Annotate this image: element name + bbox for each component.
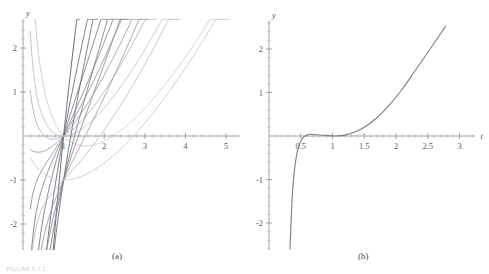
- x-axis-tick-label: 1.5: [359, 141, 370, 151]
- plot-a-svg: 1234521-1-2ty: [0, 0, 245, 250]
- y-axis-tick-label: 1: [13, 87, 17, 97]
- y-axis-tick-label: 2: [13, 43, 17, 53]
- solution-curve: [38, 19, 148, 250]
- y-axis-tick-label: -2: [256, 218, 263, 228]
- x-axis-tick-label: 2: [102, 141, 106, 151]
- x-axis-tick-label: 5: [224, 141, 228, 151]
- x-axis-tick-label: 1: [330, 141, 334, 151]
- chart-panel-b: 0.511.522.5321-1-2ty: [245, 0, 489, 274]
- x-axis-tick-label: 3: [143, 141, 147, 151]
- panel-a-caption: (a): [112, 251, 122, 261]
- y-axis-tick-label: 1: [259, 88, 263, 98]
- plot-b-svg: 0.511.522.5321-1-2ty: [245, 0, 489, 250]
- y-axis-label: y: [25, 8, 30, 18]
- solution-curve: [34, 19, 224, 146]
- solution-curve: [31, 19, 180, 250]
- y-axis-tick-label: -2: [10, 219, 17, 229]
- y-axis-tick-label: -1: [256, 175, 263, 185]
- x-axis-label: t: [480, 131, 483, 141]
- figure-root: 1234521-1-2ty 0.511.522.5321-1-2ty (a) (…: [0, 0, 489, 274]
- x-axis-tick-label: 2: [394, 141, 398, 151]
- x-axis-tick-label: 3: [457, 141, 461, 151]
- solution-curve: [30, 19, 156, 139]
- y-axis-tick-label: 2: [259, 44, 263, 54]
- y-axis-label: y: [271, 10, 276, 20]
- x-axis-tick-label: 4: [183, 141, 188, 151]
- x-axis-tick-label: 2.5: [422, 141, 433, 151]
- y-axis-tick-label: -1: [10, 175, 17, 185]
- solution-curve: [45, 19, 93, 250]
- panel-b-caption: (b): [358, 251, 369, 261]
- chart-panel-a: 1234521-1-2ty: [0, 0, 245, 274]
- figure-footnote: FIGURE 9.1.1: [6, 266, 156, 274]
